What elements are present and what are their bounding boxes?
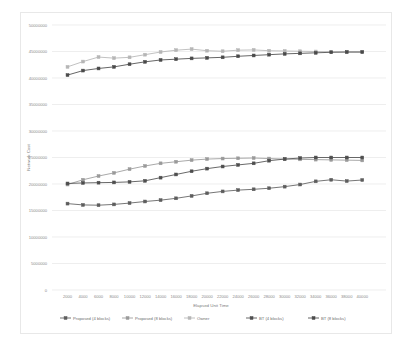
data-point-marker <box>175 173 178 176</box>
data-point-marker <box>128 180 131 183</box>
data-point-marker <box>361 159 364 162</box>
legend-marker <box>64 317 67 320</box>
data-point-marker <box>144 165 147 168</box>
line-chart: 0500000010000000150000002000000025000000… <box>0 0 418 347</box>
data-point-marker <box>159 59 162 62</box>
data-point-marker <box>268 49 271 52</box>
legend-label: BT (4 blocks) <box>259 316 284 321</box>
data-point-marker <box>345 51 348 54</box>
legend-label: Proposed (8 blocks) <box>135 316 173 321</box>
data-point-marker <box>361 156 364 159</box>
legend-label: Owner <box>197 316 210 321</box>
y-axis-tick-label: 20000000 <box>29 182 48 187</box>
legend-marker <box>312 317 315 320</box>
data-point-marker <box>206 158 209 161</box>
data-point-marker <box>283 158 286 161</box>
data-point-marker <box>237 189 240 192</box>
x-axis-tick-label: 40000 <box>357 294 369 299</box>
data-point-marker <box>221 157 224 160</box>
series-line <box>68 180 363 205</box>
data-point-marker <box>82 69 85 72</box>
x-axis-tick-label: 22000 <box>217 294 229 299</box>
x-axis-tick-label: 4000 <box>78 294 88 299</box>
legend-marker <box>250 317 253 320</box>
legend-marker <box>126 317 129 320</box>
data-point-marker <box>283 185 286 188</box>
x-axis-tick-label: 28000 <box>263 294 275 299</box>
x-axis-tick-label: 38000 <box>341 294 353 299</box>
data-point-marker <box>314 180 317 183</box>
x-axis-tick-label: 8000 <box>109 294 119 299</box>
data-point-marker <box>82 203 85 206</box>
chart-container: 0500000010000000150000002000000025000000… <box>0 0 418 347</box>
data-point-marker <box>175 160 178 163</box>
data-point-marker <box>283 50 286 53</box>
y-axis-tick-label: 40000000 <box>29 76 48 81</box>
x-axis-tick-label: 34000 <box>310 294 322 299</box>
x-axis-tick-label: 32000 <box>294 294 306 299</box>
legend-label: BT (8 blocks) <box>321 316 346 321</box>
data-point-marker <box>66 182 69 185</box>
data-point-marker <box>314 51 317 54</box>
data-point-marker <box>237 49 240 52</box>
data-point-marker <box>82 181 85 184</box>
data-point-marker <box>252 48 255 51</box>
data-point-marker <box>361 51 364 54</box>
data-point-marker <box>144 53 147 56</box>
data-point-marker <box>237 157 240 160</box>
series-line <box>68 158 363 184</box>
data-point-marker <box>113 171 116 174</box>
x-axis-tick-label: 2000 <box>63 294 73 299</box>
data-point-marker <box>299 183 302 186</box>
data-point-marker <box>330 156 333 159</box>
data-point-marker <box>128 202 131 205</box>
x-axis-tick-label: 10000 <box>124 294 136 299</box>
data-point-marker <box>159 51 162 54</box>
data-point-marker <box>299 52 302 55</box>
data-point-marker <box>128 56 131 59</box>
data-point-marker <box>66 65 69 68</box>
data-point-marker <box>97 181 100 184</box>
data-point-marker <box>144 179 147 182</box>
data-point-marker <box>190 194 193 197</box>
series-1 <box>66 157 364 186</box>
x-axis-title: Elapsed Unit Time <box>193 303 229 308</box>
series-line <box>68 158 363 185</box>
data-point-marker <box>190 159 193 162</box>
data-point-marker <box>206 167 209 170</box>
data-point-marker <box>283 52 286 55</box>
legend-item-4[interactable]: BT (8 blocks) <box>308 316 346 321</box>
x-axis-tick-label: 14000 <box>155 294 167 299</box>
data-point-marker <box>66 74 69 77</box>
y-axis-tick-label: 10000000 <box>29 235 48 240</box>
legend: Proposed (4 blocks)Proposed (8 blocks)Ow… <box>60 316 346 321</box>
legend-item-0[interactable]: Proposed (4 blocks) <box>60 316 111 321</box>
data-point-marker <box>299 157 302 160</box>
data-point-marker <box>206 49 209 52</box>
y-axis-tick-label: 50000000 <box>29 23 48 28</box>
data-point-marker <box>221 165 224 168</box>
data-point-marker <box>113 65 116 68</box>
data-point-marker <box>159 176 162 179</box>
data-point-marker <box>175 49 178 52</box>
data-point-marker <box>221 50 224 53</box>
legend-item-3[interactable]: BT (4 blocks) <box>246 316 284 321</box>
data-point-marker <box>128 168 131 171</box>
legend-item-1[interactable]: Proposed (8 blocks) <box>122 316 173 321</box>
data-point-marker <box>268 187 271 190</box>
data-point-marker <box>175 58 178 61</box>
data-point-marker <box>237 163 240 166</box>
legend-label: Proposed (4 blocks) <box>73 316 111 321</box>
data-point-marker <box>221 56 224 59</box>
x-axis-tick-label: 24000 <box>232 294 244 299</box>
y-axis-tick-label: 30000000 <box>29 129 48 134</box>
y-axis-tick-label: 25000000 <box>29 155 48 160</box>
data-point-marker <box>361 179 364 182</box>
legend-item-2[interactable]: Owner <box>184 316 210 321</box>
y-axis-tick-label: 35000000 <box>29 102 48 107</box>
x-axis-ticks: 2000400060008000100001200014000160001800… <box>63 294 369 299</box>
data-point-marker <box>82 178 85 181</box>
data-point-marker <box>314 156 317 159</box>
y-axis-tick-label: 0 <box>45 288 48 293</box>
data-point-marker <box>190 170 193 173</box>
